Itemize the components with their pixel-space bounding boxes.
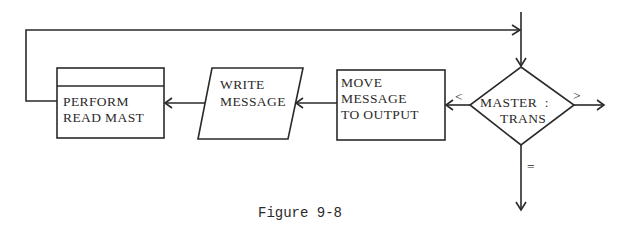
- greater-than-branch-label: >: [573, 88, 581, 103]
- write-message-parallelogram: WRITE MESSAGE: [198, 68, 303, 139]
- move-message-box: MOVE MESSAGE TO OUTPUT: [337, 70, 445, 140]
- move-label-line3: TO OUTPUT: [341, 107, 419, 122]
- write-label-line2: MESSAGE: [220, 94, 286, 109]
- move-label-line2: MESSAGE: [341, 91, 407, 106]
- decision-label-line2: TRANS: [500, 111, 546, 126]
- master-trans-decision-diamond: MASTER : TRANS: [470, 67, 574, 145]
- write-label-line1: WRITE: [220, 77, 265, 92]
- flowchart-canvas: PERFORM READ MAST WRITE MESSAGE MOVE MES…: [0, 0, 623, 230]
- less-than-branch-label: <: [455, 89, 463, 104]
- perform-label-line1: PERFORM: [63, 94, 129, 109]
- decision-label-line1: MASTER :: [480, 95, 549, 110]
- figure-caption: Figure 9-8: [258, 205, 342, 221]
- perform-label-line2: READ MAST: [63, 110, 145, 125]
- perform-read-mast-box: PERFORM READ MAST: [57, 68, 164, 138]
- equal-branch-label: =: [527, 159, 535, 174]
- move-label-line1: MOVE: [341, 75, 382, 90]
